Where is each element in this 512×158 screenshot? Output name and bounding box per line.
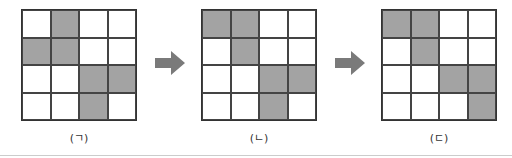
grid-panel-1 <box>21 9 137 121</box>
shaded-cell <box>288 65 317 93</box>
empty-cell <box>202 93 231 121</box>
shaded-cell <box>202 10 231 38</box>
empty-cell <box>411 65 440 93</box>
shaded-cell <box>259 65 288 93</box>
empty-cell <box>439 10 468 38</box>
empty-cell <box>108 10 137 38</box>
shaded-cell <box>411 10 440 38</box>
empty-cell <box>468 38 497 66</box>
shaded-cell <box>51 10 80 38</box>
grid-panel-3 <box>381 9 497 121</box>
empty-cell <box>382 38 411 66</box>
empty-cell <box>411 93 440 121</box>
empty-cell <box>439 38 468 66</box>
empty-cell <box>22 65 51 93</box>
shaded-cell <box>51 38 80 66</box>
empty-cell <box>79 10 108 38</box>
empty-cell <box>231 93 260 121</box>
empty-cell <box>79 38 108 66</box>
empty-cell <box>259 10 288 38</box>
empty-cell <box>51 65 80 93</box>
grid-panel-2 <box>201 9 317 121</box>
empty-cell <box>108 93 137 121</box>
empty-cell <box>22 93 51 121</box>
shaded-cell <box>79 93 108 121</box>
empty-cell <box>382 93 411 121</box>
empty-cell <box>108 38 137 66</box>
panel-label-2: (ㄴ) <box>201 129 317 145</box>
empty-cell <box>231 65 260 93</box>
shaded-cell <box>468 93 497 121</box>
empty-cell <box>288 93 317 121</box>
empty-cell <box>439 93 468 121</box>
empty-cell <box>51 93 80 121</box>
divider <box>0 155 512 156</box>
empty-cell <box>202 38 231 66</box>
empty-cell <box>288 38 317 66</box>
right-arrow-icon <box>155 51 185 75</box>
empty-cell <box>22 10 51 38</box>
shaded-cell <box>439 65 468 93</box>
shaded-cell <box>411 38 440 66</box>
panel-label-3: (ㄷ) <box>381 129 497 145</box>
shaded-cell <box>79 65 108 93</box>
empty-cell <box>288 10 317 38</box>
shaded-cell <box>22 38 51 66</box>
panel-label-1: (ㄱ) <box>21 129 137 145</box>
empty-cell <box>468 10 497 38</box>
shaded-cell <box>108 65 137 93</box>
right-arrow-icon <box>335 51 365 75</box>
shaded-cell <box>231 10 260 38</box>
shaded-cell <box>468 65 497 93</box>
empty-cell <box>382 65 411 93</box>
empty-cell <box>202 65 231 93</box>
shaded-cell <box>259 93 288 121</box>
shaded-cell <box>231 38 260 66</box>
empty-cell <box>259 38 288 66</box>
shaded-cell <box>382 10 411 38</box>
